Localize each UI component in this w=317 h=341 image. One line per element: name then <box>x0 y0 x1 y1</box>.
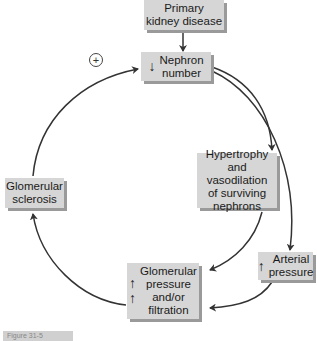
node-glomerular-sclerosis: Glomerular sclerosis <box>5 178 64 208</box>
node-glomerular-pressure-filtration: ↑ ↑ Glomerular pressure and/or filtratio… <box>127 263 199 319</box>
node-nephron-number: ↓ Nephron number <box>141 52 211 81</box>
node-arterial-pressure: ↑ Arterial pressure <box>258 252 313 280</box>
increase-arrow-icon: ↑ <box>129 276 136 291</box>
figure-label: Figure 31-5 <box>3 331 73 341</box>
decrease-arrow-icon: ↓ <box>148 59 155 74</box>
increase-arrow-icon: ↑ <box>258 259 265 274</box>
node-hypertrophy-vasodilation: Hypertrophy and vasodilation of survivin… <box>197 153 277 208</box>
positive-feedback-symbol: + <box>89 53 103 67</box>
node-primary-kidney-disease: Primary kidney disease <box>144 0 224 30</box>
increase-arrow-icon: ↑ <box>129 291 136 306</box>
